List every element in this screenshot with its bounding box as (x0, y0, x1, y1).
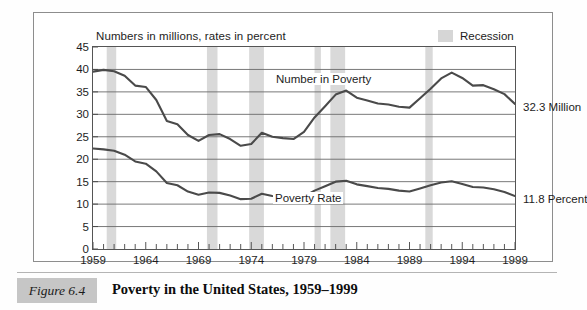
series-label-poverty-rate: Poverty Rate (273, 192, 343, 204)
series-label-number-in-poverty: Number in Poverty (274, 73, 373, 85)
x-axis-tick-label: 1994 (449, 254, 475, 266)
x-axis-tick-label: 1974 (238, 254, 264, 266)
y-axis-tick-label: 20 (67, 152, 89, 166)
y-axis-tick-label: 30 (67, 107, 89, 121)
figure-root: Numbers in millions, rates in percent Re… (0, 0, 587, 310)
figure-title: Poverty in the United States, 1959–1999 (112, 281, 358, 298)
legend-label-recession: Recession (460, 30, 514, 42)
x-axis-tick-label: 1984 (344, 254, 370, 266)
x-axis-tick-label: 1959 (80, 254, 106, 266)
recession-band (107, 47, 116, 249)
figure-number-box: Figure 6.4 (17, 278, 97, 303)
x-axis-tick-label: 1964 (133, 254, 159, 266)
annotation-number-end-value: 32.3 Million (523, 101, 581, 113)
recession-band (207, 47, 218, 249)
x-axis-tick-label: 1999 (502, 254, 528, 266)
y-axis-tick-label: 40 (67, 62, 89, 76)
chart-subtitle: Numbers in millions, rates in percent (96, 30, 286, 42)
chart-panel: Numbers in millions, rates in percent Re… (33, 12, 553, 262)
y-axis-labels: 051015202530354045 (67, 39, 89, 257)
recession-band (249, 47, 264, 249)
annotation-rate-end-value: 11.8 Percent (523, 193, 587, 205)
x-axis-tick-label: 1969 (186, 254, 212, 266)
y-axis-tick-label: 10 (67, 197, 89, 211)
caption-divider (17, 272, 557, 273)
y-axis-tick-label: 15 (67, 175, 89, 189)
y-axis-tick-label: 25 (67, 130, 89, 144)
recession-band (425, 47, 432, 249)
x-axis-tick-label: 1979 (291, 254, 317, 266)
y-axis-tick-label: 5 (67, 220, 89, 234)
recession-swatch-icon (438, 30, 453, 42)
y-axis-tick-label: 35 (67, 85, 89, 99)
x-axis-tick-label: 1989 (397, 254, 423, 266)
y-axis-tick-label: 45 (67, 40, 89, 54)
legend: Recession (438, 30, 514, 42)
figure-number-label: Figure 6.4 (29, 283, 86, 299)
